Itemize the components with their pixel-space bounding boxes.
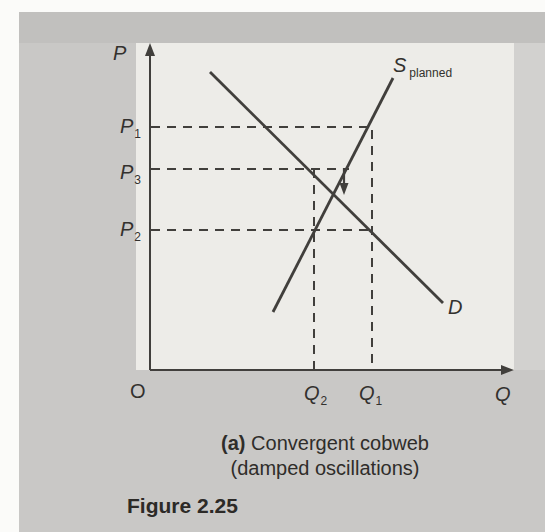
supply-letter: S [393,54,406,76]
demand-curve-label: D [448,297,462,317]
p3-base: P [120,161,133,183]
q2-tick-label: Q2 [304,383,327,403]
subcaption-line2: (damped oscillations) [139,456,511,481]
p2-tick-label: P2 [120,219,141,239]
q1-base: Q [359,382,375,404]
p1-base: P [120,115,133,137]
p2-subscript: 2 [134,230,141,244]
p1-tick-label: P1 [120,116,141,136]
y-axis-letter: P [113,42,126,64]
subcaption-text: Convergent cobweb [251,432,429,454]
supply-curve [273,78,393,312]
demand-letter: D [448,296,462,318]
q1-tick-label: Q1 [359,383,382,403]
figure-number: Figure 2.25 [127,495,238,517]
scanned-textbook-figure: P P1 P3 P2 Splanned D O Q2 Q1 Q (a) Conv… [0,0,545,532]
cobweb-arrowhead [340,183,349,195]
subcaption-tag: (a) [221,432,245,454]
q1-subscript: 1 [376,394,383,408]
y-axis-label: P [113,43,126,63]
p1-subscript: 1 [134,127,141,141]
supply-subscript: planned [409,66,452,80]
origin-label: O [130,381,146,401]
supply-curve-label: Splanned [393,55,452,75]
y-axis-arrowhead [145,43,155,56]
subcaption-line1: (a) Convergent cobweb [139,431,511,456]
p3-tick-label: P3 [120,162,141,182]
subcaption: (a) Convergent cobweb (damped oscillatio… [139,431,511,481]
q2-subscript: 2 [321,394,328,408]
demand-curve [210,72,443,303]
origin-letter: O [130,380,146,402]
x-axis-letter: Q [495,383,511,405]
p3-subscript: 3 [134,173,141,187]
p2-base: P [120,218,133,240]
x-axis-arrowhead [501,365,514,375]
q2-base: Q [304,382,320,404]
x-axis-label: Q [495,384,511,404]
